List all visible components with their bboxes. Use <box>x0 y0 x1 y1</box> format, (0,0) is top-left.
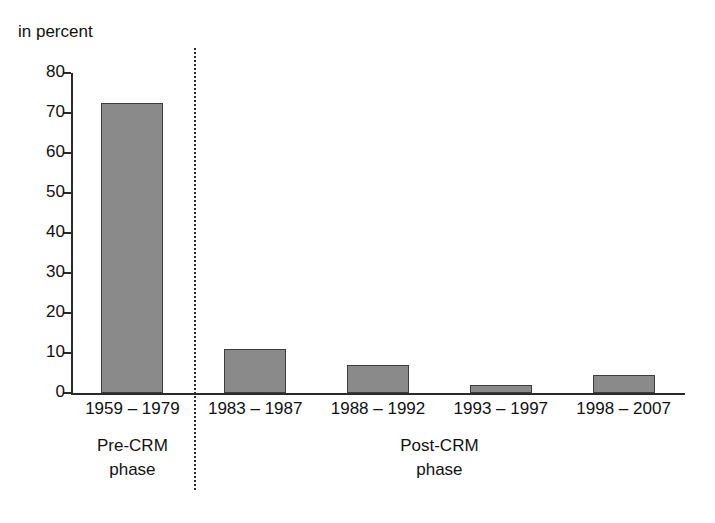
x-axis-label-2: 1983 – 1987 <box>194 398 317 420</box>
pre-crm-phase-caption: Pre-CRMphase <box>71 434 194 482</box>
y-tick-label: 50 <box>46 182 65 202</box>
bar-4 <box>470 385 532 393</box>
post-crm-phase-caption: Post-CRMphase <box>194 434 685 482</box>
y-tick-label: 70 <box>46 102 65 122</box>
bar-chart: in percent 80706050403020100 1959 – 1979… <box>0 0 715 523</box>
y-tick-label: 20 <box>46 302 65 322</box>
y-tick-label: 30 <box>46 262 65 282</box>
pre-crm-phase-caption-line2: phase <box>71 458 194 482</box>
x-axis-label-3: 1988 – 1992 <box>317 398 440 420</box>
plot-area: 80706050403020100 <box>71 73 685 393</box>
y-tick-label: 80 <box>46 62 65 82</box>
y-axis-line <box>71 73 73 393</box>
pre-crm-phase-caption-line1: Pre-CRM <box>71 434 194 458</box>
post-crm-phase-caption-line1: Post-CRM <box>194 434 685 458</box>
bar-1 <box>101 103 163 393</box>
y-tick-label: 40 <box>46 222 65 242</box>
y-tick-label: 0 <box>56 382 65 402</box>
y-tick-label: 10 <box>46 342 65 362</box>
x-axis-label-1: 1959 – 1979 <box>71 398 194 420</box>
y-axis-unit-label: in percent <box>18 22 93 42</box>
x-axis-label-5: 1998 – 2007 <box>562 398 685 420</box>
x-axis-line <box>71 393 685 395</box>
post-crm-phase-caption-line2: phase <box>194 458 685 482</box>
bar-5 <box>593 375 655 393</box>
phase-divider-line <box>194 48 196 490</box>
bar-2 <box>224 349 286 393</box>
bar-3 <box>347 365 409 393</box>
y-tick-label: 60 <box>46 142 65 162</box>
x-axis-label-4: 1993 – 1997 <box>439 398 562 420</box>
